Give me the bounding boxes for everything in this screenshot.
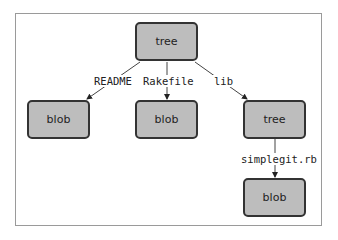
node-label: tree (263, 113, 285, 126)
node-label: blob (263, 191, 287, 204)
node-simplegit-blob: blob (243, 178, 306, 217)
node-root-tree: tree (135, 22, 198, 61)
node-label: blob (155, 113, 179, 126)
edge-label-lib: lib (213, 75, 234, 87)
node-label: tree (155, 35, 177, 48)
node-rakefile-blob: blob (135, 100, 198, 139)
node-label: blob (47, 113, 71, 126)
edge-label-readme: README (93, 75, 133, 87)
node-lib-tree: tree (243, 100, 306, 139)
edge-label-simplegit: simplegit.rb (240, 153, 318, 165)
node-readme-blob: blob (27, 100, 90, 139)
edge-label-rakefile: Rakefile (142, 75, 195, 87)
